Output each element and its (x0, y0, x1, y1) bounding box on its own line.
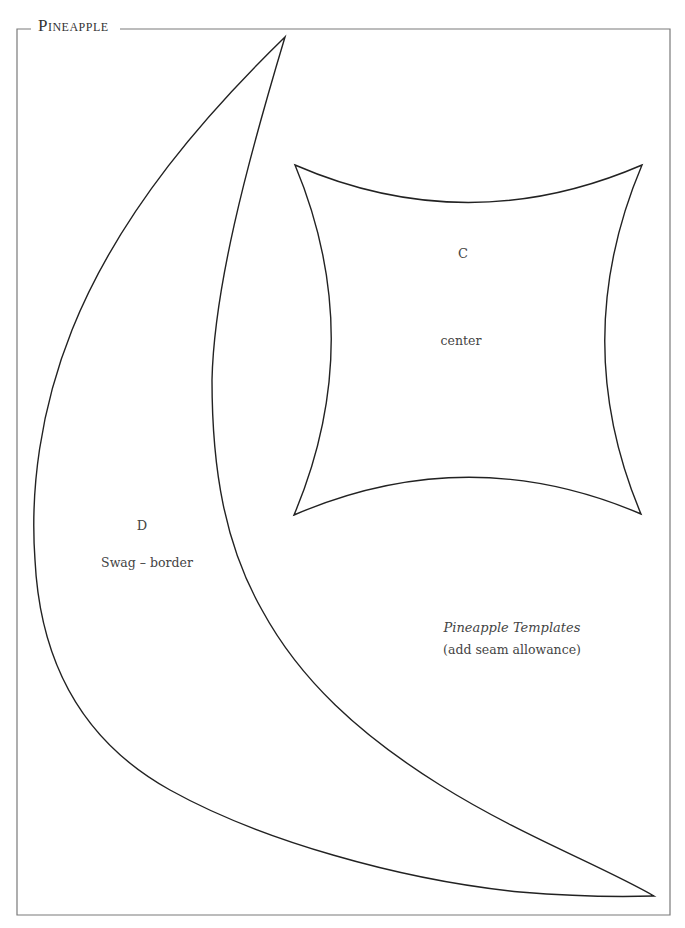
template-d-letter: D (137, 518, 147, 534)
template-c-letter: C (458, 246, 468, 262)
template-d-name: Swag – border (101, 555, 193, 571)
page-frame (17, 29, 670, 915)
caption-title: Pineapple Templates (444, 620, 581, 636)
template-page: Pineapple C center D Swag – border Pinea… (0, 0, 685, 928)
page-title: Pineapple (36, 16, 113, 36)
template-drawing (0, 0, 685, 928)
template-d-outline (34, 37, 654, 897)
caption-note: (add seam allowance) (443, 642, 581, 658)
template-c-name: center (441, 333, 482, 349)
